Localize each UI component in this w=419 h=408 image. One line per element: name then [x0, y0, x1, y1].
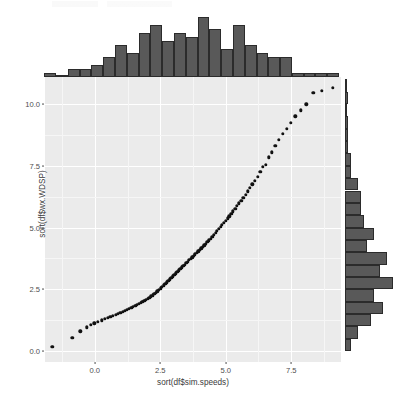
right-histogram-bar: [345, 203, 361, 215]
top-histogram-bar: [280, 57, 292, 77]
scatter-point: [312, 91, 315, 94]
top-histogram-bar: [127, 53, 139, 77]
right-histogram-bar: [345, 289, 374, 301]
right-histogram-bar: [345, 92, 348, 104]
right-histogram-bar: [345, 79, 347, 91]
top-histogram-bar: [233, 25, 245, 77]
top-histogram-bar: [103, 57, 115, 77]
y-tick-mark: [42, 104, 44, 105]
y-tick-mark: [42, 227, 44, 228]
scatter-point: [270, 151, 273, 154]
gridline-vertical-minor: [193, 77, 194, 362]
gridline-vertical-minor: [324, 77, 325, 362]
right-histogram-bar: [345, 339, 351, 351]
top-histogram-bar: [139, 33, 151, 77]
right-histogram-bar: [345, 228, 374, 240]
right-histogram-bar: [345, 215, 364, 227]
y-tick-label: 7.5: [12, 161, 40, 170]
scatter-point: [239, 199, 242, 202]
top-histogram-bar: [257, 53, 269, 77]
right-marginal-histogram: [345, 77, 415, 362]
top-histogram-bar: [245, 45, 257, 77]
scatter-point: [294, 115, 297, 118]
y-tick-mark: [42, 165, 44, 166]
y-tick-mark: [42, 289, 44, 290]
scatter-point: [261, 165, 264, 168]
right-histogram-bar: [345, 277, 393, 289]
top-histogram-bar: [186, 37, 198, 77]
right-histogram-bar: [345, 191, 361, 203]
scatter-point: [242, 196, 245, 199]
scatter-point: [331, 86, 334, 89]
x-tick-label: 7.5: [276, 366, 306, 375]
top-histogram-bar: [150, 25, 162, 77]
top-histogram-bar: [209, 29, 221, 77]
gridline-vertical-minor: [128, 77, 129, 362]
x-axis-title: sort(df$sim.speeds): [157, 378, 229, 387]
right-histogram-bar: [345, 116, 348, 128]
y-tick-label: 10.0: [12, 100, 40, 109]
scatter-point: [248, 186, 251, 189]
x-tick-mark: [291, 362, 292, 364]
top-histogram-bar: [198, 17, 210, 77]
y-tick-label: 2.5: [12, 285, 40, 294]
top-marginal-histogram: [45, 14, 341, 77]
right-histogram-bar: [345, 178, 358, 190]
scatter-point: [51, 345, 54, 348]
scatter-point: [237, 202, 240, 205]
right-histogram-bar: [345, 240, 367, 252]
scatter-point: [274, 144, 277, 147]
top-histogram-bar: [68, 69, 80, 77]
x-tick-mark: [225, 362, 226, 364]
x-tick-mark: [94, 362, 95, 364]
gridline-vertical-minor: [258, 77, 259, 362]
top-histogram-bar: [174, 33, 186, 77]
scatter-point: [235, 204, 238, 207]
right-histogram-bar: [345, 129, 348, 141]
top-histogram-bar: [115, 45, 127, 77]
top-histogram-bar: [268, 57, 280, 77]
top-histogram-bar: [80, 69, 92, 77]
right-histogram-bar: [345, 104, 347, 116]
jointplot-figure: sort(df$wx.WDSP) sort(df$sim.speeds) 0.0…: [0, 0, 419, 408]
right-histogram-bar: [345, 302, 383, 314]
scatter-point: [259, 170, 262, 173]
scatter-point: [253, 179, 256, 182]
top-histogram-bar: [162, 41, 174, 77]
scatter-point: [299, 109, 302, 112]
scatter-point: [320, 89, 323, 92]
scatter-point: [251, 183, 254, 186]
scatter-point: [246, 190, 249, 193]
y-tick-label: 5.0: [12, 223, 40, 232]
right-histogram-bar: [345, 265, 380, 277]
scatter-point: [305, 102, 308, 105]
gridline-vertical-minor: [62, 77, 63, 362]
right-histogram-bar: [345, 314, 371, 326]
scatter-point: [267, 155, 270, 158]
scatter-point: [277, 138, 280, 141]
scatter-point: [71, 336, 74, 339]
right-histogram-bar: [345, 153, 351, 165]
right-histogram-bar: [345, 326, 358, 338]
x-tick-mark: [160, 362, 161, 364]
scatter-point: [233, 207, 236, 210]
top-edge-artifact: [52, 1, 172, 7]
right-histogram-bar: [345, 141, 348, 153]
scatter-point: [285, 127, 288, 130]
x-tick-label: 2.5: [145, 366, 175, 375]
scatter-panel: [45, 77, 341, 362]
top-histogram-bar: [221, 49, 233, 77]
right-histogram-bar: [345, 166, 351, 178]
y-tick-mark: [42, 350, 44, 351]
top-histogram-bar: [91, 65, 103, 77]
y-tick-label: 0.0: [12, 346, 40, 355]
right-histogram-bar: [345, 252, 387, 264]
scatter-point: [79, 329, 82, 332]
x-tick-label: 5.0: [211, 366, 241, 375]
scatter-point: [85, 326, 88, 329]
x-tick-label: 0.0: [80, 366, 110, 375]
